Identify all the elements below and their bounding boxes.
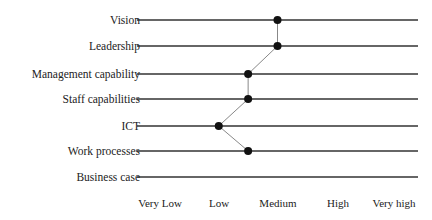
category-label-management-capability: Management capability [32,67,140,81]
category-label-leadership: Leadership [89,39,140,53]
data-point-marker [274,42,282,50]
category-label-ict: ICT [121,119,140,133]
category-label-work-processes: Work processes [68,144,140,158]
tick-label-medium: Medium [259,196,296,210]
category-label-vision: Vision [110,13,140,27]
connector-line [219,99,248,126]
connector-line [248,46,277,74]
category-label-business-case: Business case [76,170,140,184]
category-label-staff-capabilities: Staff capabilities [63,92,140,106]
data-point-marker [244,95,252,103]
data-point-marker [274,16,282,24]
connector-line [219,126,248,151]
data-point-marker [215,122,223,130]
tick-label-high: High [327,196,349,210]
tick-label-low: Low [209,196,229,210]
profile-chart [0,0,432,220]
tick-label-very-low: Very Low [138,196,182,210]
tick-label-very-high: Very high [372,196,415,210]
data-point-marker [244,70,252,78]
data-point-marker [244,147,252,155]
